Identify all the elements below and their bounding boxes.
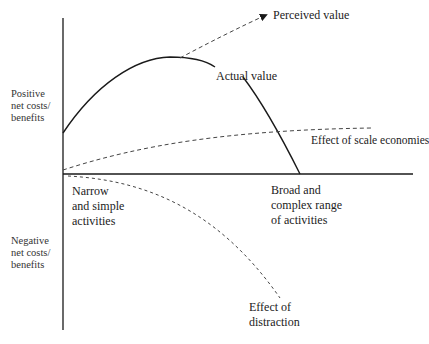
diagram-canvas [0, 0, 429, 344]
y-axis-positive-label: Positive net costs/ benefits [11, 88, 50, 124]
x-axis-left-label: Narrow and simple activities [72, 184, 124, 229]
actual-value-curve-falling [243, 77, 300, 174]
actual-value-curve-rising [63, 57, 215, 133]
actual-value-label: Actual value [216, 69, 277, 83]
scale-economies-label: Effect of scale economies [311, 133, 429, 147]
perceived-value-curve [180, 15, 266, 58]
perceived-value-label: Perceived value [273, 8, 349, 22]
distraction-label: Effect of distraction [249, 300, 300, 330]
y-axis-negative-label: Negative net costs/ benefits [11, 235, 50, 271]
x-axis-right-label: Broad and complex range of activities [271, 183, 342, 228]
